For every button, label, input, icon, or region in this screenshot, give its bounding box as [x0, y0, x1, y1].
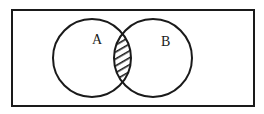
set-b-label: B — [161, 34, 170, 49]
set-a-label: A — [92, 32, 103, 47]
venn-diagram: A B — [0, 0, 264, 114]
